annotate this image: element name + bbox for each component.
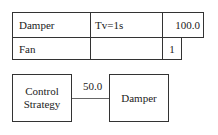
row1-name: Damper xyxy=(19,19,54,31)
row1-name-cell: Damper xyxy=(12,12,91,38)
row1-param: Tv=1s xyxy=(95,19,123,31)
row2-name: Fan xyxy=(19,43,36,55)
row1-param-cell: Tv=1s xyxy=(90,12,163,38)
row2-value: 1 xyxy=(169,43,175,55)
connection-line xyxy=(72,98,109,99)
connection-value-label: 50.0 xyxy=(83,80,102,92)
control-strategy-line2: Strategy xyxy=(24,98,61,111)
control-strategy-line1: Control xyxy=(24,85,61,98)
damper-block[interactable]: Damper xyxy=(109,74,169,122)
row2-param-cell xyxy=(90,37,163,60)
damper-block-label: Damper xyxy=(121,92,156,105)
row1-value: 100.0 xyxy=(175,19,200,31)
row2-name-cell: Fan xyxy=(12,37,91,60)
row1-value-cell[interactable]: 100.0 xyxy=(162,12,204,38)
control-strategy-block[interactable]: Control Strategy xyxy=(12,74,72,122)
row2-value-cell[interactable]: 1 xyxy=(162,37,182,60)
